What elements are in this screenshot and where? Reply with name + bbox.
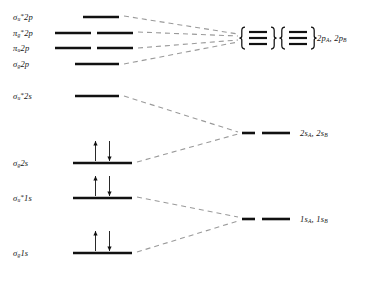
mo-shell: 2p — [24, 12, 33, 22]
correlation-line — [124, 96, 238, 132]
ao-subscript: B — [324, 132, 328, 138]
correlation-line — [137, 221, 238, 252]
correlation-line — [137, 197, 238, 217]
electron-arrow-up-head — [93, 231, 97, 235]
ao-shell: 2p — [317, 33, 326, 43]
electron-arrow-down-head — [107, 192, 111, 196]
ao-shell: 2s — [300, 128, 308, 138]
mo-shell: 2s — [20, 158, 28, 168]
mo-shell: 2p — [20, 59, 29, 69]
electron-arrow-up-head — [93, 176, 97, 180]
ao-subscript: B — [343, 37, 347, 43]
ao-subscript: B — [324, 218, 328, 224]
mo-label-sigma-g-2s: σg2s — [13, 158, 28, 168]
mo-shell: 2p — [24, 28, 33, 38]
mo-label-pi-g-star-2p: πg*2p — [13, 28, 33, 39]
ao-label-ao-2s: 2sA, 2sB — [300, 128, 328, 138]
correlation-line — [137, 134, 238, 162]
mo-shell: 2p — [20, 43, 29, 53]
energy-level-lines-group — [55, 17, 307, 253]
brace-left — [239, 27, 245, 49]
ao-label-ao-1s: 1sA, 1sB — [300, 214, 328, 224]
mo-energy-diagram: σu*2pπg*2pπu2pσg2pσu*2sσg2sσu*1sσg1s 2pA… — [0, 0, 376, 282]
correlation-lines-group — [124, 16, 238, 252]
electron-arrow-down-head — [107, 157, 111, 161]
mo-label-sigma-g-2p: σg2p — [13, 59, 29, 69]
correlation-line — [124, 42, 238, 64]
mo-label-pi-u-2p: πu2p — [13, 43, 29, 53]
ao-label-ao-2p: 2pA, 2pB — [317, 33, 347, 43]
mo-label-sigma-u-star-2s: σu*2s — [13, 91, 32, 102]
brace-left — [279, 27, 285, 49]
ao-shell: 1s — [300, 214, 308, 224]
mo-shell: 2s — [24, 91, 32, 101]
mo-label-sigma-g-1s: σg1s — [13, 248, 28, 258]
correlation-line — [138, 40, 238, 48]
correlation-line — [124, 16, 238, 34]
brace-right — [271, 27, 277, 49]
mo-label-sigma-u-star-1s: σu*1s — [13, 193, 32, 204]
electron-arrow-up-head — [93, 141, 97, 145]
ao-shell: 2p — [334, 33, 343, 43]
brace-right — [311, 27, 317, 49]
mo-shell: 1s — [20, 248, 28, 258]
electron-arrow-down-head — [107, 247, 111, 251]
mo-shell: 1s — [24, 193, 32, 203]
mo-label-sigma-u-star-2p: σu*2p — [13, 12, 33, 23]
electron-arrows-group — [93, 141, 111, 251]
correlation-line — [138, 32, 238, 36]
